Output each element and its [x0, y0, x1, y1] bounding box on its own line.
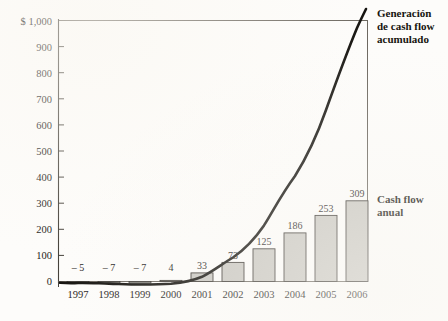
- x-axis-label-1999: 1999: [130, 289, 151, 300]
- x-axis-label-2000: 2000: [161, 289, 182, 300]
- bar-value-2001: 33: [197, 260, 207, 271]
- bar-value-1999: – 7: [133, 262, 147, 273]
- y-axis-label-100: 100: [36, 250, 52, 261]
- x-axis-label-2002: 2002: [223, 289, 244, 300]
- y-axis-ticks: [59, 47, 65, 256]
- bar-value-1997: – 5: [71, 262, 85, 273]
- x-axis-labels: 1997 1998 1999 2000 2001 2002 2003 2004 …: [68, 289, 368, 300]
- bar-2005: [315, 215, 337, 281]
- annotation-annual-line-2: anual: [377, 206, 403, 218]
- annotation-cumulative-cash-flow: Generación de cash flow acumulado: [377, 7, 435, 45]
- y-axis-label-0: 0: [47, 276, 52, 287]
- y-axis-label-200: 200: [36, 224, 52, 235]
- bar-2000: [160, 280, 182, 281]
- x-axis-label-2005: 2005: [316, 289, 337, 300]
- y-axis-label-600: 600: [36, 120, 52, 131]
- bar-value-2004: 186: [288, 220, 303, 231]
- y-axis-label-800: 800: [36, 68, 52, 79]
- bar-value-1998: – 7: [102, 262, 116, 273]
- bar-value-2006: 309: [350, 188, 365, 199]
- annotation-annual-cash-flow: Cash flow anual: [377, 193, 424, 218]
- x-axis-label-1997: 1997: [68, 289, 89, 300]
- bar-2006: [346, 201, 368, 282]
- x-axis-label-2003: 2003: [254, 289, 275, 300]
- y-axis-label-900: 900: [36, 42, 52, 53]
- x-axis-label-1998: 1998: [99, 289, 120, 300]
- chart-canvas: $ 1,000 900 800 700 600 500 400 300 200 …: [0, 0, 448, 321]
- annotation-cumulative-line-3: acumulado: [377, 33, 429, 45]
- y-axis-label-300: 300: [36, 198, 52, 209]
- bar-2003: [253, 249, 275, 282]
- bar-value-2000: 4: [169, 262, 174, 273]
- annotation-cumulative-line-2: de cash flow: [377, 20, 435, 32]
- y-axis-label-700: 700: [36, 94, 52, 105]
- bar-1999: [129, 281, 151, 283]
- chart-figure: $ 1,000 900 800 700 600 500 400 300 200 …: [0, 0, 448, 321]
- y-axis-labels: $ 1,000 900 800 700 600 500 400 300 200 …: [21, 16, 53, 288]
- x-axis-label-2004: 2004: [285, 289, 307, 300]
- x-axis-label-2006: 2006: [347, 289, 368, 300]
- bar-2002: [222, 262, 244, 281]
- annotation-cumulative-line-1: Generación: [377, 7, 431, 19]
- bar-value-2003: 125: [257, 236, 272, 247]
- y-axis-label-400: 400: [36, 172, 52, 183]
- bar-value-2005: 253: [319, 203, 334, 214]
- x-axis-label-2001: 2001: [192, 289, 213, 300]
- y-axis-label-500: 500: [36, 146, 52, 157]
- bar-2004: [284, 233, 306, 282]
- annotation-annual-line-1: Cash flow: [377, 193, 424, 205]
- y-axis-label-1000: $ 1,000: [21, 16, 53, 27]
